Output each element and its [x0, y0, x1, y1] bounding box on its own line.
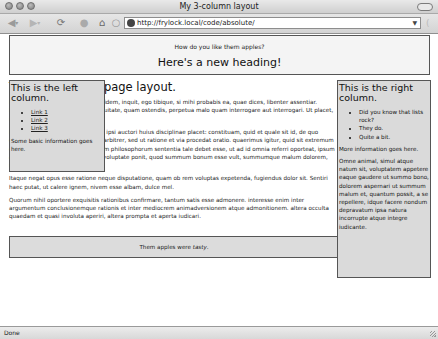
left-column-links: Link 1 Link 2 Link 3: [10, 108, 104, 132]
link-2[interactable]: Link 2: [31, 117, 48, 123]
resize-grip-icon[interactable]: [430, 331, 436, 337]
reload-icon: ⟳: [57, 17, 65, 28]
list-item: Link 3: [31, 124, 104, 132]
header-heading: Here's a new heading!: [10, 56, 429, 70]
title-bar: My 3-column layout: [0, 0, 438, 14]
reload-button[interactable]: ⟳: [55, 17, 67, 29]
page-footer: Them apples were tasty.: [9, 236, 338, 258]
footer-emphasis: tasty: [193, 244, 207, 250]
window-title: My 3-column layout: [0, 0, 438, 13]
spinner-icon: ○: [112, 17, 121, 28]
right-column-list: Did you know that lists rock? They do. Q…: [338, 108, 430, 141]
stop-button[interactable]: ●: [78, 17, 90, 29]
url-history-dropdown-icon[interactable]: ▼: [412, 18, 417, 28]
list-item: They do.: [359, 124, 430, 132]
right-column-info: More information goes here.: [339, 145, 430, 153]
stop-icon: ●: [80, 17, 89, 28]
right-column-paragraph: Omne animal, simul atque natum sit, volu…: [339, 157, 430, 231]
address-bar[interactable]: http://frylock.local/code/absolute/ ▼: [124, 17, 421, 29]
link-1[interactable]: Link 1: [31, 109, 48, 115]
browser-window: My 3-column layout ◀▾ ▶▾ ⟳ ● ⌂ ○ http://…: [0, 0, 438, 339]
list-item: Did you know that lists rock?: [359, 108, 430, 124]
header-subtitle: How do you like them apples?: [10, 43, 429, 51]
list-item: Link 2: [31, 116, 104, 124]
main-paragraph: Quorum nihil oportere exquisitis rationi…: [9, 196, 339, 221]
right-column-title: This is the right column.: [339, 83, 430, 103]
page-header: How do you like them apples? Here's a ne…: [9, 35, 430, 75]
toolbar-toggle-button[interactable]: [417, 3, 433, 11]
back-history-dropdown-icon[interactable]: ▾: [15, 19, 18, 26]
status-bar: Done: [0, 326, 438, 339]
back-button[interactable]: ◀▾: [5, 17, 21, 29]
left-column-info: Some basic information goes here.: [11, 137, 104, 153]
forward-history-dropdown-icon[interactable]: ▾: [37, 19, 40, 26]
link-3[interactable]: Link 3: [31, 125, 48, 131]
page-viewport: How do you like them apples? Here's a ne…: [0, 34, 438, 326]
site-globe-icon: [127, 19, 135, 27]
left-column: This is the left column. Link 1 Link 2 L…: [9, 80, 105, 172]
status-text: Done: [4, 327, 20, 339]
home-button[interactable]: ⌂: [96, 17, 108, 29]
forward-button[interactable]: ▶▾: [27, 17, 43, 29]
right-column: This is the right column. Did you know t…: [337, 80, 431, 278]
url-text[interactable]: http://frylock.local/code/absolute/: [137, 18, 255, 28]
search-bar-edge-icon[interactable]: (: [426, 17, 430, 29]
left-column-title: This is the left column.: [11, 83, 104, 103]
list-item: Link 1: [31, 108, 104, 116]
home-icon: ⌂: [99, 17, 105, 28]
footer-text: Them apples were: [139, 244, 192, 250]
list-item: Quite a bit.: [359, 133, 430, 141]
activity-indicator: ○: [111, 17, 121, 29]
navigation-toolbar: ◀▾ ▶▾ ⟳ ● ⌂ ○ http://frylock.local/code/…: [0, 14, 438, 34]
footer-text-end: .: [207, 244, 209, 250]
main-paragraph: Itaque negat opus esse ratione neque dis…: [9, 174, 339, 191]
